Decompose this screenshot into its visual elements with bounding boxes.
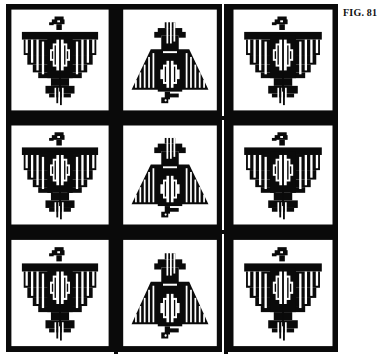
- quilt-grid: [6, 4, 338, 354]
- thunderbird-folded-icon: [118, 234, 222, 352]
- tile-thunderbird-folded: [118, 4, 222, 116]
- tile-thunderbird-spread: [6, 234, 114, 352]
- separator-bar: [6, 230, 338, 234]
- thunderbird-spread-icon: [228, 4, 338, 116]
- tile-thunderbird-folded: [118, 120, 222, 230]
- thunderbird-spread-icon: [228, 234, 338, 352]
- tile-thunderbird-spread: [228, 4, 338, 116]
- tile-thunderbird-spread: [6, 4, 114, 116]
- separator-bar: [224, 4, 228, 354]
- thunderbird-spread-icon: [6, 4, 114, 116]
- figure-caption: FIG. 81: [343, 7, 377, 18]
- thunderbird-spread-icon: [6, 234, 114, 352]
- tile-thunderbird-spread: [228, 120, 338, 230]
- thunderbird-folded-icon: [118, 120, 222, 230]
- tile-thunderbird-spread: [6, 120, 114, 230]
- thunderbird-spread-icon: [228, 120, 338, 230]
- separator-bar: [114, 4, 118, 354]
- tile-thunderbird-folded: [118, 234, 222, 352]
- thunderbird-folded-icon: [118, 4, 222, 116]
- tile-thunderbird-spread: [228, 234, 338, 352]
- separator-bar: [6, 116, 338, 120]
- thunderbird-spread-icon: [6, 120, 114, 230]
